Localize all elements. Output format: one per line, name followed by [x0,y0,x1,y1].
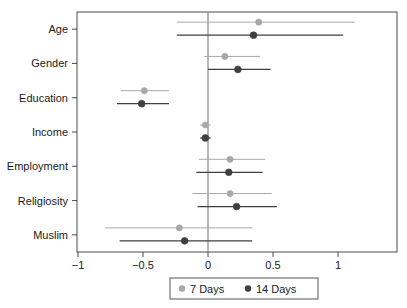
plot-canvas: AgeGenderEducationIncomeEmploymentReligi… [0,0,407,308]
coefficient-plot-figure: AgeGenderEducationIncomeEmploymentReligi… [0,0,407,308]
y-axis-label-gender: Gender [31,57,68,69]
legend-marker-7-days [179,285,185,291]
point-marker [141,88,147,94]
y-axis-label-income: Income [32,126,68,138]
point-marker [227,190,233,196]
x-tick-label-0: −1 [72,259,85,271]
y-axis-label-age: Age [48,23,68,35]
x-tick-label-1: −0.5 [132,259,154,271]
point-marker [222,53,228,59]
legend-marker-14-days [245,285,251,291]
x-tick-label-2: 0 [205,259,211,271]
point-marker [202,122,208,128]
point-marker [235,66,242,73]
point-marker [202,135,209,142]
point-marker [233,203,240,210]
point-marker [225,169,232,176]
x-tick-label-4: 1 [335,259,341,271]
y-axis-label-employment: Employment [7,160,68,172]
y-axis-label-muslim: Muslim [33,229,68,241]
x-tick-label-3: 0.5 [265,259,280,271]
point-marker [176,225,182,231]
point-marker [227,156,233,162]
point-marker [250,32,257,39]
point-marker [138,100,145,107]
legend-label-14-days: 14 Days [256,283,297,295]
point-marker [256,19,262,25]
point-marker [181,237,188,244]
y-axis-label-education: Education [19,92,68,104]
plot-frame [77,12,397,252]
legend-label-7-days: 7 Days [190,283,225,295]
y-axis-label-religiosity: Religiosity [18,195,69,207]
